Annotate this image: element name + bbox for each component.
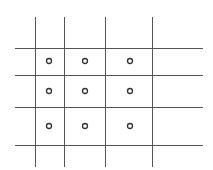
circle-point-icon — [83, 89, 88, 94]
circle-point-icon — [128, 124, 133, 129]
grid-diagram — [0, 0, 213, 170]
circle-point-icon — [47, 59, 52, 64]
circle-point-icon — [83, 59, 88, 64]
circle-point-icon — [47, 89, 52, 94]
circle-point-icon — [128, 89, 133, 94]
grid-points — [47, 59, 133, 129]
circle-point-icon — [83, 124, 88, 129]
circle-point-icon — [47, 124, 52, 129]
circle-point-icon — [128, 59, 133, 64]
horizontal-grid-lines — [15, 49, 203, 146]
vertical-grid-lines — [36, 17, 153, 167]
